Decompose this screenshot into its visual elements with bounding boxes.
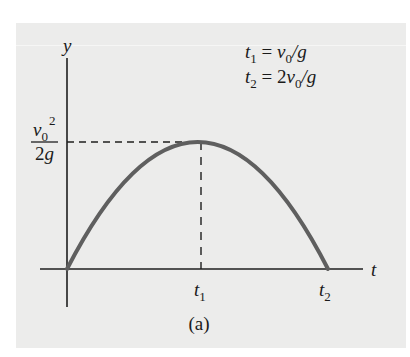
- y-axis-label: y: [61, 35, 72, 56]
- equation-t2: t2 = 2v0/g: [245, 66, 316, 91]
- trajectory-curve: [67, 142, 328, 269]
- tick-label-t1: t1: [194, 279, 206, 304]
- equation-t1: t1 = v0/g: [245, 41, 307, 66]
- figure-caption: (a): [188, 313, 209, 335]
- max-height-denominator: 2g: [35, 143, 54, 164]
- max-height-label: v02 2g: [31, 113, 58, 164]
- t-axis-label: t: [371, 259, 377, 280]
- max-height-numerator: v02: [33, 113, 55, 144]
- tick-label-t2: t2: [319, 279, 331, 304]
- projectile-height-diagram: y t t1 = v0/g t2 = 2v0/g v02 2g t1 t2 (a…: [0, 0, 410, 357]
